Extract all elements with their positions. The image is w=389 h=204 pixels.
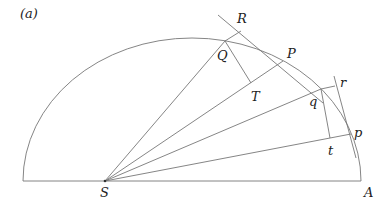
label-t: t (328, 143, 334, 158)
label-A: A (363, 185, 373, 200)
label-q: q (309, 94, 317, 109)
panel-label: (a) (20, 6, 38, 21)
label-S: S (100, 185, 109, 200)
label-R: R (236, 11, 247, 26)
label-T: T (251, 89, 261, 104)
label-P: P (286, 46, 296, 61)
segment-qr (321, 86, 335, 89)
orbit-diagram: (a) R Q P T q r p t S A (0, 0, 389, 204)
radius-Sp (105, 134, 351, 181)
tangent-PR (218, 15, 323, 103)
radius-SQ (105, 41, 225, 181)
focus-S-point (104, 180, 107, 183)
label-p: p (354, 125, 363, 140)
label-r: r (340, 75, 347, 90)
orbit-arc (23, 38, 361, 181)
segment-QT (225, 41, 251, 83)
label-Q: Q (217, 48, 228, 63)
radius-Sq (105, 89, 321, 181)
segment-QR (225, 31, 241, 41)
radius-SP (105, 61, 283, 181)
